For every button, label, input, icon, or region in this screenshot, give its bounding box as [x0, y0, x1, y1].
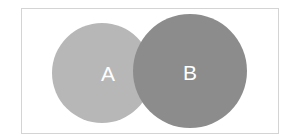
venn-diagram: A B	[0, 0, 287, 139]
set-b-label: B	[183, 61, 197, 84]
set-a-label: A	[101, 62, 115, 85]
